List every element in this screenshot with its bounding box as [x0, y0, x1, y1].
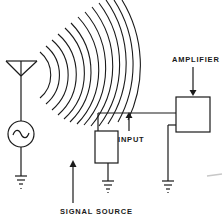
signal-source-label: SIGNAL SOURCE [60, 207, 133, 216]
signal-source-box [95, 131, 118, 163]
radio-waves-icon [40, 0, 140, 126]
ground-icon [15, 176, 27, 189]
antenna-icon [6, 61, 37, 121]
amplifier-box [176, 97, 210, 132]
input-label: INPUT [118, 135, 145, 144]
schematic-diagram [0, 0, 223, 220]
ac-source-icon [8, 121, 34, 176]
input-arrow-icon [126, 112, 133, 131]
amplifier-label: AMPLIFIER [172, 55, 220, 64]
amplifier-arrow-icon [190, 67, 197, 96]
ground-icon [102, 163, 114, 193]
signal-source-arrow-icon [70, 160, 77, 203]
amplifier-ground-wire [168, 125, 176, 181]
stray-mark [207, 174, 222, 176]
ground-icon [162, 181, 174, 193]
